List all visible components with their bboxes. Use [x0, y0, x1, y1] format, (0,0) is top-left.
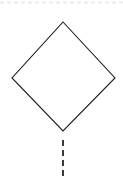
decision-diamond-shape[interactable]: [12, 22, 115, 131]
diagram-canvas: [0, 0, 123, 179]
diagram-svg: [0, 0, 123, 179]
